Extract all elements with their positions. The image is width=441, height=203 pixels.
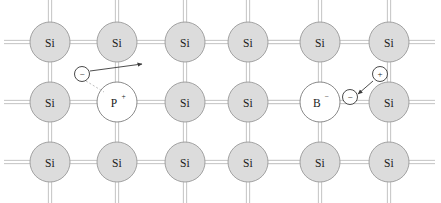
carrier-bound-electron-acceptor[interactable]: −: [343, 90, 358, 105]
bond-vertical-c2-r1: [183, 121, 186, 143]
bond-horizontal-r2-c4: [339, 160, 370, 163]
bond-horizontal-r2-c1: [136, 160, 166, 163]
bond-horizontal-r0-c4: [339, 40, 370, 43]
carrier-free-hole-acceptor[interactable]: +: [373, 67, 388, 82]
bond-horizontal-r2-c0: [69, 160, 98, 163]
bond-horizontal-r0-c1: [136, 40, 166, 43]
atom-label: Si: [315, 157, 325, 169]
atom-p-r1-c1[interactable]: P+: [97, 82, 137, 122]
atom-label: Si: [315, 37, 325, 49]
leader-line-layer: [86, 81, 104, 92]
atom-label: B: [313, 97, 321, 109]
carrier-symbol: −: [79, 69, 84, 79]
atom-si-r1-c5[interactable]: Si: [369, 82, 409, 122]
atom-label: Si: [45, 157, 55, 169]
electron-capture-arrow: [358, 81, 373, 94]
bond-vertical-c3-r1: [246, 121, 249, 143]
atom-si-r2-c4[interactable]: Si: [300, 142, 340, 182]
bond-vertical-c0-r0: [48, 61, 51, 83]
bond-stub-top-c0: [48, 0, 51, 23]
atom-charge-superscript: −: [324, 92, 328, 101]
atom-label: Si: [45, 97, 55, 109]
bond-stub-right-r2: [408, 160, 435, 163]
bond-stub-top-c4: [318, 0, 321, 23]
bond-horizontal-r0-c3: [267, 40, 301, 43]
electron-escape-arrow: [90, 64, 142, 71]
atom-label: Si: [180, 157, 190, 169]
bond-stub-top-c3: [246, 0, 249, 23]
bond-vertical-c3-r0: [246, 61, 249, 83]
lattice-canvas: SiSiSiSiSiSiSiP+SiSiB−SiSiSiSiSiSiSi −−+: [0, 0, 441, 203]
atom-si-r2-c1[interactable]: Si: [97, 142, 137, 182]
atom-si-r0-c0[interactable]: Si: [30, 22, 70, 62]
atom-si-r0-c2[interactable]: Si: [165, 22, 205, 62]
atom-label: Si: [384, 97, 394, 109]
donor-leader: [86, 81, 104, 92]
atom-label: Si: [243, 97, 253, 109]
carrier-symbol: +: [377, 69, 382, 79]
atom-label: Si: [180, 97, 190, 109]
carrier-free-electron-donor[interactable]: −: [75, 67, 90, 82]
atom-label: Si: [243, 37, 253, 49]
bond-horizontal-r0-c2: [204, 40, 229, 43]
bond-vertical-c5-r1: [387, 121, 390, 143]
bond-vertical-c2-r0: [183, 61, 186, 83]
atom-si-r2-c5[interactable]: Si: [369, 142, 409, 182]
atom-si-r0-c3[interactable]: Si: [228, 22, 268, 62]
bond-vertical-c0-r1: [48, 121, 51, 143]
atom-label: Si: [243, 157, 253, 169]
atom-si-r2-c2[interactable]: Si: [165, 142, 205, 182]
atom-label: Si: [384, 157, 394, 169]
bond-stub-top-c1: [115, 0, 118, 23]
atom-si-r0-c5[interactable]: Si: [369, 22, 409, 62]
atom-si-r1-c3[interactable]: Si: [228, 82, 268, 122]
atom-label: P: [111, 97, 118, 109]
atom-charge-superscript: +: [121, 92, 125, 101]
carrier-symbol: −: [347, 92, 352, 102]
bond-vertical-c1-r0: [115, 61, 118, 83]
bond-stub-left-r0: [4, 40, 31, 43]
bond-horizontal-r1-c2: [204, 100, 229, 103]
bond-vertical-c5-r0: [387, 61, 390, 83]
atom-si-r2-c0[interactable]: Si: [30, 142, 70, 182]
bond-horizontal-r1-c3: [267, 100, 301, 103]
bond-stub-top-c5: [387, 0, 390, 23]
bond-stub-left-r2: [4, 160, 31, 163]
bond-stub-right-r0: [408, 40, 435, 43]
bond-stub-bottom-c5: [387, 181, 390, 203]
bond-horizontal-r2-c3: [267, 160, 301, 163]
atom-label: Si: [384, 37, 394, 49]
bond-stub-top-c2: [183, 0, 186, 23]
atom-si-r0-c1[interactable]: Si: [97, 22, 137, 62]
atom-label: Si: [45, 37, 55, 49]
bond-stub-bottom-c4: [318, 181, 321, 203]
atom-si-r1-c2[interactable]: Si: [165, 82, 205, 122]
bond-stub-bottom-c1: [115, 181, 118, 203]
bond-horizontal-r1-c1: [136, 100, 166, 103]
bond-vertical-c1-r1: [115, 121, 118, 143]
bond-vertical-c4-r0: [318, 61, 321, 83]
atom-si-r2-c3[interactable]: Si: [228, 142, 268, 182]
bond-stub-left-r1: [4, 100, 31, 103]
atom-b-r1-c4[interactable]: B−: [300, 82, 340, 122]
atom-label: Si: [180, 37, 190, 49]
atom-si-r1-c0[interactable]: Si: [30, 82, 70, 122]
atom-label: Si: [112, 37, 122, 49]
atom-label: Si: [112, 157, 122, 169]
bond-vertical-c4-r1: [318, 121, 321, 143]
bond-stub-bottom-c3: [246, 181, 249, 203]
atom-si-r0-c4[interactable]: Si: [300, 22, 340, 62]
semiconductor-doping-diagram: SiSiSiSiSiSiSiP+SiSiB−SiSiSiSiSiSiSi −−+: [0, 0, 441, 203]
bond-stub-bottom-c0: [48, 181, 51, 203]
bond-stub-bottom-c2: [183, 181, 186, 203]
bond-horizontal-r2-c2: [204, 160, 229, 163]
bond-horizontal-r1-c0: [69, 100, 98, 103]
bond-stub-right-r1: [408, 100, 435, 103]
bond-horizontal-r0-c0: [69, 40, 98, 43]
